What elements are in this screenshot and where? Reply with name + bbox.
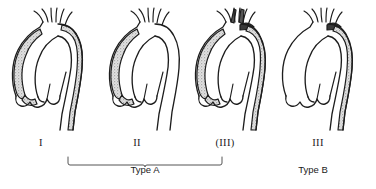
false-lumen-root-3	[205, 95, 220, 105]
false-lumen-ascending-2	[111, 29, 139, 99]
panel-debakey-ii	[109, 8, 179, 130]
panel-debakey-iii-retrograde	[195, 8, 265, 130]
panel-label-i: I	[31, 137, 51, 148]
group-label-type-a: Type A	[115, 164, 175, 175]
diagram-canvas	[0, 0, 376, 189]
aortic-dissection-figure: I II (III) III Type A Type B	[0, 0, 376, 189]
panel-label-iii-retrograde: (III)	[210, 137, 240, 148]
false-lumen-ascending-1	[14, 29, 42, 99]
panel-debakey-iii	[282, 8, 352, 130]
panel-debakey-i	[12, 8, 82, 130]
false-lumen-root-2	[119, 95, 134, 105]
false-lumen-root-1	[22, 95, 37, 105]
panel-label-iii: III	[308, 137, 328, 148]
panel-label-ii: II	[127, 137, 147, 148]
group-label-type-b: Type B	[283, 164, 343, 175]
false-lumen-ascending-3	[197, 29, 225, 99]
